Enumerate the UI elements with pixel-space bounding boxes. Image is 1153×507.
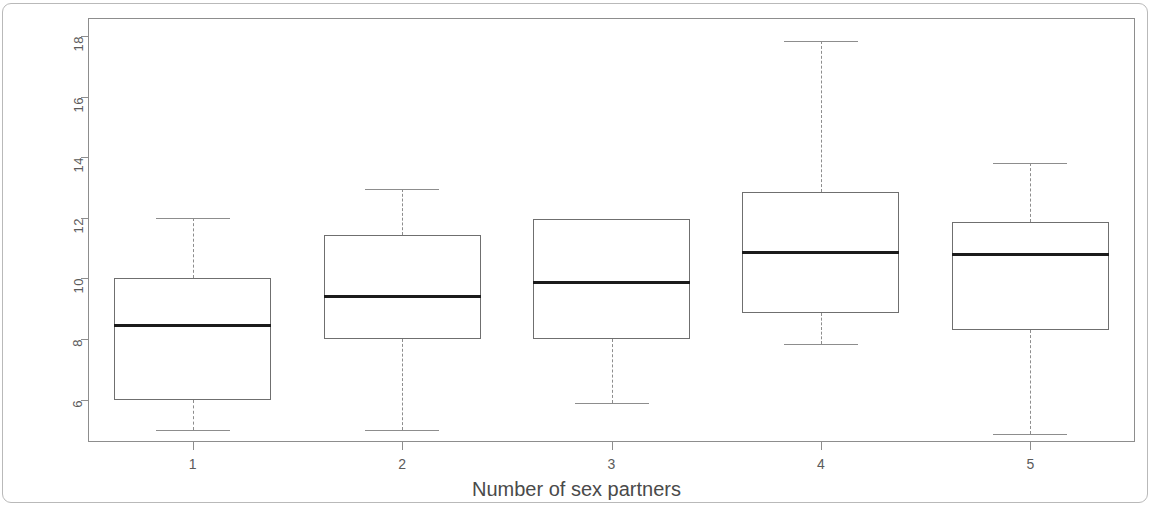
- median-line: [952, 253, 1109, 256]
- x-tick-label: 1: [189, 456, 197, 472]
- x-tick-mark: [1030, 442, 1031, 450]
- x-tick-mark: [402, 442, 403, 450]
- x-tick-label: 3: [608, 456, 616, 472]
- whisker-cap-upper: [993, 163, 1067, 164]
- boxplot-figure: Total risk perception score Number of se…: [0, 0, 1153, 507]
- plot-area: 681012141618 12345: [88, 18, 1135, 442]
- boxplot-box: [88, 18, 1135, 442]
- y-tick-label: 18: [71, 36, 86, 51]
- x-axis-title: Number of sex partners: [0, 478, 1153, 501]
- whisker-lower: [1030, 330, 1031, 434]
- x-tick-label: 2: [398, 456, 406, 472]
- x-tick-label: 5: [1026, 456, 1034, 472]
- y-tick-label: 8: [71, 339, 86, 347]
- y-tick-label: 10: [71, 278, 86, 293]
- x-tick-mark: [612, 442, 613, 450]
- x-tick-mark: [821, 442, 822, 450]
- y-tick-label: 14: [71, 157, 86, 172]
- y-tick-label: 6: [71, 400, 86, 408]
- whisker-cap-lower: [993, 434, 1067, 435]
- whisker-upper: [1030, 163, 1031, 222]
- x-tick-mark: [193, 442, 194, 450]
- iqr-box: [952, 222, 1109, 330]
- x-tick-label: 4: [817, 456, 825, 472]
- y-tick-label: 12: [71, 218, 86, 233]
- y-tick-label: 16: [71, 97, 86, 112]
